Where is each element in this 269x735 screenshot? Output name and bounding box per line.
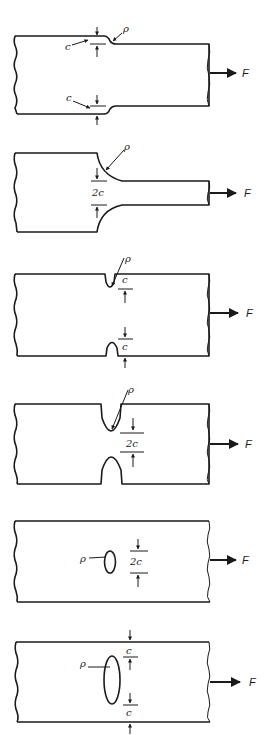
rho-label: ρ <box>122 23 129 34</box>
c-label-top: c <box>65 41 71 52</box>
force-label: F <box>242 67 250 79</box>
stress-concentration-diagram: c ρ c F ρ 2c F ρ c <box>0 0 269 735</box>
width-2c-label: 2c <box>129 556 142 567</box>
panel-1-step-shoulder: c ρ c F <box>14 23 250 125</box>
elliptical-hole <box>105 551 116 573</box>
force-label: F <box>245 438 253 450</box>
force-label: F <box>246 307 254 319</box>
panel-4-deep-double-notch: ρ 2c F <box>14 384 253 484</box>
c-label-bottom: c <box>122 341 128 352</box>
force-label: F <box>244 187 252 199</box>
c-label-bottom: c <box>126 707 132 718</box>
c-label-bottom: c <box>66 92 72 103</box>
elliptical-hole <box>104 656 120 704</box>
c-label-top: c <box>126 645 132 656</box>
specimen-outline <box>14 404 209 484</box>
width-2c-label: 2c <box>125 438 138 449</box>
rho-label: ρ <box>124 253 131 264</box>
panel-6-large-elliptical-hole: ρ c c F <box>15 630 257 734</box>
specimen-outline <box>14 521 210 602</box>
c-label-top: c <box>122 274 128 285</box>
panel-2-filleted-shoulder: ρ 2c F <box>14 141 252 232</box>
specimen-outline <box>15 642 210 722</box>
rho-label: ρ <box>79 658 86 669</box>
force-label: F <box>242 554 250 566</box>
specimen-outline <box>14 36 209 114</box>
width-2c-label: 2c <box>91 187 104 198</box>
rho-label: ρ <box>79 553 86 564</box>
panel-3-shallow-double-notch: ρ c c F <box>14 253 254 368</box>
rho-label: ρ <box>127 384 134 395</box>
specimen-outline <box>14 274 209 356</box>
force-label: F <box>249 676 257 688</box>
specimen-outline <box>14 153 209 232</box>
rho-label: ρ <box>123 141 130 152</box>
panel-5-small-elliptical-hole: ρ 2c F <box>14 521 250 602</box>
